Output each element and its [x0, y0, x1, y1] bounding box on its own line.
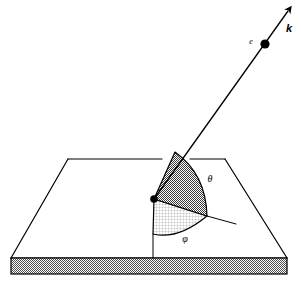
label-electron-e: e — [249, 37, 253, 46]
slab-top-face — [11, 159, 287, 258]
label-wavevector-k: k — [286, 22, 293, 34]
origin-dot — [150, 195, 158, 203]
figure-container: k e θ φ — [0, 0, 301, 285]
label-azimuthal-angle-phi: φ — [182, 233, 188, 244]
label-polar-angle-theta: θ — [208, 173, 213, 184]
slab-front-face — [11, 258, 287, 274]
scattering-geometry-diagram: k e θ φ — [0, 0, 301, 285]
electron-dot — [260, 39, 269, 48]
slab-group — [11, 159, 287, 274]
